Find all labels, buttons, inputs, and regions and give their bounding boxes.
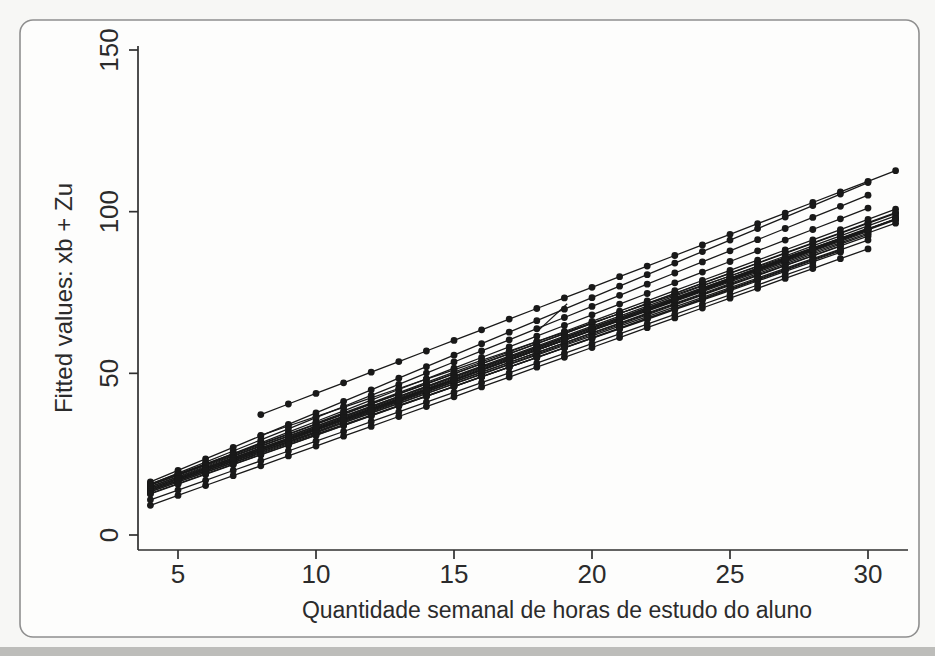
data-point	[671, 287, 678, 294]
data-point	[865, 226, 872, 233]
data-point	[865, 216, 872, 223]
data-point	[285, 442, 292, 449]
data-point	[754, 282, 761, 289]
data-point	[671, 260, 678, 267]
page-scan-edge	[0, 647, 935, 656]
data-point	[506, 357, 513, 364]
x-tick-label: 30	[854, 559, 883, 589]
data-point	[616, 283, 623, 290]
data-point	[616, 273, 623, 280]
data-point	[782, 247, 789, 254]
data-point	[782, 256, 789, 263]
x-tick-label: 25	[716, 559, 745, 589]
data-point	[671, 270, 678, 277]
data-point	[423, 399, 430, 406]
data-point	[727, 237, 734, 244]
data-point	[892, 206, 899, 213]
data-point	[644, 315, 651, 322]
data-point	[478, 373, 485, 380]
data-point	[671, 279, 678, 286]
data-point	[809, 256, 816, 263]
data-point	[313, 413, 320, 420]
data-point	[533, 338, 540, 345]
data-point	[478, 348, 485, 355]
data-point	[671, 311, 678, 318]
data-point	[699, 286, 706, 293]
data-point	[340, 428, 347, 435]
data-point	[313, 424, 320, 431]
data-point	[699, 295, 706, 302]
data-point	[368, 369, 375, 376]
data-point	[837, 255, 844, 262]
y-tick-label: 150	[94, 28, 124, 71]
data-point	[754, 225, 761, 232]
y-tick-label: 0	[94, 528, 124, 542]
data-point	[423, 387, 430, 394]
data-point	[451, 352, 458, 359]
data-point	[699, 242, 706, 249]
data-point	[589, 294, 596, 301]
data-point	[589, 327, 596, 334]
data-point	[423, 393, 430, 400]
data-point	[533, 305, 540, 312]
data-point	[837, 215, 844, 222]
data-point	[782, 225, 789, 232]
data-point	[340, 417, 347, 424]
data-point	[395, 397, 402, 404]
data-point	[644, 263, 651, 270]
data-point	[451, 389, 458, 396]
data-point	[451, 359, 458, 366]
data-point	[285, 448, 292, 455]
data-point	[589, 334, 596, 341]
data-point	[865, 205, 872, 212]
data-point	[561, 295, 568, 302]
data-point	[340, 379, 347, 386]
data-point	[892, 216, 899, 223]
x-tick-label: 15	[440, 559, 469, 589]
data-point	[147, 491, 154, 498]
data-point	[147, 496, 154, 503]
data-point	[561, 322, 568, 329]
data-point	[561, 314, 568, 321]
data-point	[423, 363, 430, 370]
data-point	[478, 367, 485, 374]
data-point	[257, 452, 264, 459]
data-point	[782, 214, 789, 221]
data-point	[451, 337, 458, 344]
data-point	[175, 481, 182, 488]
x-axis-title: Quantidade semanal de horas de estudo do…	[302, 597, 812, 623]
y-tick-label: 100	[94, 190, 124, 233]
data-point	[644, 306, 651, 313]
data-point	[727, 267, 734, 274]
data-point	[506, 329, 513, 336]
data-point	[589, 318, 596, 325]
data-point	[478, 326, 485, 333]
data-point	[809, 214, 816, 221]
data-point	[506, 364, 513, 371]
data-point	[754, 257, 761, 264]
data-point	[616, 308, 623, 315]
data-point	[257, 411, 264, 418]
data-point	[754, 266, 761, 273]
data-point	[533, 347, 540, 354]
data-point	[589, 284, 596, 291]
data-point	[478, 340, 485, 347]
data-point	[727, 291, 734, 298]
y-tick-label: 50	[94, 359, 124, 388]
data-point	[451, 383, 458, 390]
y-axis-title: Fitted values: xb + Zu	[50, 183, 77, 413]
data-point	[561, 328, 568, 335]
data-point	[616, 325, 623, 332]
data-point	[644, 321, 651, 328]
data-point	[395, 358, 402, 365]
data-point	[561, 337, 568, 344]
x-tick-label: 10	[302, 559, 331, 589]
data-point	[865, 246, 872, 253]
data-point	[865, 179, 872, 186]
data-point	[202, 471, 209, 478]
data-point	[754, 247, 761, 254]
data-point	[671, 296, 678, 303]
scanned-figure-page: 05010015051015202530 Fitted values: xb +…	[0, 0, 935, 656]
data-point	[285, 423, 292, 430]
data-point	[727, 247, 734, 254]
